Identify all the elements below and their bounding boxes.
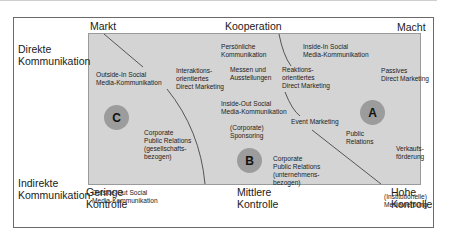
- item-inside-out-social-media: Inside-Out SocialMedia-Kommunikation: [221, 100, 287, 116]
- axis-label-direkte-kommunikation: Direkte Kommunikation: [18, 43, 88, 67]
- item-line: Outside-Out Social: [92, 189, 158, 197]
- item-line: orientiertes: [282, 74, 330, 82]
- item-line: (Institutionelle): [384, 193, 427, 201]
- item-inside-in-social-media: Inside-In SocialMedia-Kommunikation: [303, 43, 369, 59]
- item-line: (Corporate): [230, 124, 264, 132]
- item-event-marketing: Event Marketing: [291, 118, 339, 126]
- item-line: Mediawerbung: [384, 201, 427, 209]
- item-line: Messen und: [230, 66, 271, 74]
- item-institutionelle-mediawerbung: (Institutionelle)Mediawerbung: [384, 193, 427, 209]
- axis-label-markt: Markt: [90, 20, 116, 32]
- cluster-circle-b: B: [237, 148, 262, 173]
- boundary-line-a-upper: [279, 34, 291, 66]
- item-passives-direct-marketing: PassivesDirect Marketing: [381, 67, 429, 83]
- item-public-relations: PublicRelations: [346, 130, 374, 146]
- item-line: Event Marketing: [291, 118, 339, 126]
- item-messen-und-ausstellungen: Messen undAusstellungen: [230, 66, 271, 82]
- item-corporate-sponsoring: (Corporate)Sponsoring: [230, 124, 264, 140]
- item-line: Media-Kommunikation: [221, 108, 287, 116]
- cluster-label-c: C: [112, 111, 121, 125]
- item-line: Public Relations: [144, 137, 191, 145]
- item-corporate-pr-gesellschaftsbezogen: CorporatePublic Relations(gesellschafts-…: [144, 129, 191, 161]
- item-line: bezogen): [144, 153, 191, 161]
- item-line: Sponsoring: [230, 132, 264, 140]
- item-line: orientiertes: [176, 75, 224, 83]
- item-line: Relations: [346, 138, 374, 146]
- item-line: Direct Marketing: [176, 83, 224, 91]
- item-persoenliche-kommunikation: PersönlicheKommunikation: [221, 43, 266, 59]
- item-line: Outside-In Social: [96, 71, 162, 79]
- item-line: Interaktions-: [176, 67, 224, 75]
- boundary-line-c-left: [104, 34, 143, 67]
- item-line: Corporate: [273, 155, 320, 163]
- axis-label-mittlere-kontrolle: Mittlere Kontrolle: [237, 186, 287, 210]
- item-reaktionsorientiertes-direct-marketing: Reaktions-orientiertesDirect Marketing: [282, 66, 330, 90]
- item-line: Media-Kommunikation: [303, 51, 369, 59]
- item-line: Corporate: [144, 129, 191, 137]
- item-line: Verkaufs-: [396, 145, 424, 153]
- item-line: Passives: [381, 67, 429, 75]
- item-line: (gesellschafts-: [144, 145, 191, 153]
- cluster-circle-a: A: [360, 100, 385, 125]
- item-interaktionsorientiertes-direct-marketing: Interaktions-orientiertesDirect Marketin…: [176, 67, 224, 91]
- cluster-circle-c: C: [104, 105, 129, 130]
- item-line: Public Relations: [273, 163, 320, 171]
- boundary-line-a-mid: [285, 92, 300, 116]
- item-outside-in-social-media: Outside-In SocialMedia-Kommunikation: [96, 71, 162, 87]
- item-line: Persönliche: [221, 43, 266, 51]
- item-line: Media-Kommunikation: [96, 79, 162, 87]
- cluster-label-a: A: [368, 106, 377, 120]
- axis-label-macht: Macht: [397, 21, 426, 33]
- item-verkaufsfoerderung: Verkaufs-förderung: [396, 145, 424, 161]
- axis-label-indirekte-kommunikation: Indirekte Kommunikation: [18, 177, 88, 201]
- item-line: Reaktions-: [282, 66, 330, 74]
- item-line: Direct Marketing: [381, 75, 429, 83]
- item-line: Inside-Out Social: [221, 100, 287, 108]
- item-line: Inside-In Social: [303, 43, 369, 51]
- boundary-lines: [0, 0, 450, 251]
- item-line: (unternehmens-: [273, 171, 320, 179]
- item-corporate-pr-unternehmensbezogen: CorporatePublic Relations(unternehmens-b…: [273, 155, 320, 187]
- axis-label-kooperation: Kooperation: [225, 20, 282, 32]
- item-line: Media-Kommunikation: [92, 197, 158, 205]
- item-outside-out-social-media: Outside-Out SocialMedia-Kommunikation: [92, 189, 158, 205]
- item-line: Direct Marketing: [282, 82, 330, 90]
- item-line: förderung: [396, 153, 424, 161]
- cluster-label-b: B: [245, 154, 254, 168]
- item-line: Ausstellungen: [230, 74, 271, 82]
- item-line: Public: [346, 130, 374, 138]
- item-line: bezogen): [273, 179, 320, 187]
- item-line: Kommunikation: [221, 51, 266, 59]
